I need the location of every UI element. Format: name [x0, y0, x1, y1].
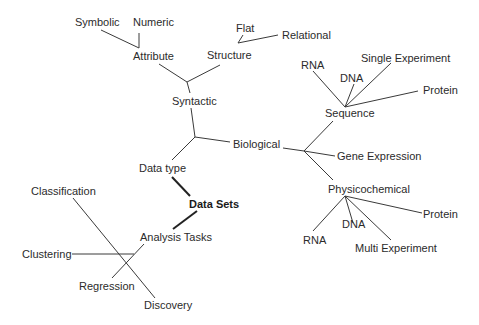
node-sequence-protein: Protein [423, 84, 458, 97]
node-data-sets: Data Sets [189, 198, 239, 211]
node-data-type: Data type [139, 162, 186, 175]
diagram-edge [187, 82, 190, 93]
diagram-edge [238, 35, 278, 43]
node-syntactic: Syntactic [172, 95, 217, 108]
node-relational: Relational [282, 29, 331, 42]
node-discovery: Discovery [144, 299, 192, 312]
data-sets-taxonomy-diagram: Data Sets Data type Analysis Tasks Synta… [0, 0, 479, 325]
diagram-edge [345, 196, 422, 213]
diagram-edge [172, 177, 190, 196]
node-physicochemical-rna: RNA [303, 234, 326, 247]
diagram-edge [345, 84, 354, 107]
diagram-edge [195, 137, 230, 142]
diagram-edge [345, 63, 391, 107]
node-biological: Biological [233, 138, 280, 151]
node-physicochemical-protein: Protein [423, 208, 458, 221]
node-structure: Structure [207, 49, 252, 62]
node-flat: Flat [236, 22, 254, 35]
node-sequence-dna: DNA [340, 72, 363, 85]
diagram-edge [304, 121, 333, 151]
node-classification: Classification [31, 185, 96, 198]
diagram-edge [172, 137, 195, 160]
diagram-edge [283, 148, 304, 151]
node-sequence-rna: RNA [301, 59, 324, 72]
node-regression: Regression [79, 280, 135, 293]
node-sequence-single-experiment: Single Experiment [361, 52, 450, 65]
node-gene-expression: Gene Expression [337, 150, 421, 163]
node-physicochemical-dna: DNA [342, 218, 365, 231]
diagram-edge [112, 244, 144, 278]
node-attribute: Attribute [133, 50, 174, 63]
diagram-edge [345, 91, 418, 107]
diagram-edge [313, 196, 345, 231]
diagram-edge [187, 65, 220, 82]
diagram-edge [173, 211, 197, 229]
node-sequence: Sequence [325, 107, 375, 120]
node-symbolic: Symbolic [75, 16, 120, 29]
diagram-edge [159, 64, 187, 82]
diagram-edge [191, 108, 195, 137]
node-clustering: Clustering [22, 248, 72, 261]
node-numeric: Numeric [133, 16, 174, 29]
node-analysis-tasks: Analysis Tasks [140, 231, 212, 244]
node-physicochemical-multi-experiment: Multi Experiment [355, 242, 437, 255]
diagram-edge [101, 30, 139, 48]
node-physicochemical: Physicochemical [328, 183, 410, 196]
